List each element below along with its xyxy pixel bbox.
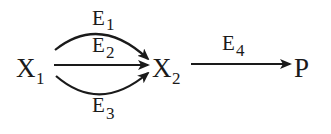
- edge-e1-label-base: E: [92, 6, 105, 30]
- pathway-diagram-svg: X 1 X 2 P E 1 E 2 E 3: [0, 0, 331, 134]
- node-x1-subscript: 1: [36, 69, 45, 88]
- node-x2-base: X: [152, 53, 172, 83]
- edge-e4-label-subscript: 4: [236, 41, 245, 60]
- edge-e2: E 2: [54, 33, 148, 65]
- pathway-diagram: X 1 X 2 P E 1 E 2 E 3: [0, 0, 331, 134]
- node-p: P: [294, 53, 309, 83]
- edge-e4: E 4: [191, 31, 290, 64]
- edge-e3-label-subscript: 3: [106, 104, 115, 123]
- node-x2: X 2: [152, 53, 181, 88]
- node-x2-subscript: 2: [172, 69, 181, 88]
- edge-e3-label-base: E: [92, 93, 105, 117]
- arc-arrow-e3: [56, 73, 148, 94]
- node-x1-base: X: [16, 53, 36, 83]
- edge-e1-label-subscript: 1: [106, 15, 115, 34]
- edge-e2-label-subscript: 2: [106, 43, 115, 62]
- edge-e3: E 3: [56, 73, 148, 123]
- edge-e4-label-base: E: [222, 31, 235, 55]
- edge-e2-label-base: E: [92, 33, 105, 57]
- node-p-base: P: [294, 53, 309, 83]
- node-x1: X 1: [16, 53, 45, 88]
